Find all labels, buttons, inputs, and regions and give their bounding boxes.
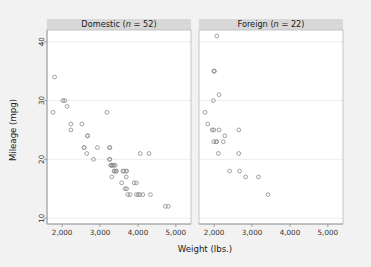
panel-header-label-foreign: Foreign (n = 22) <box>238 19 305 29</box>
panel-plot-area <box>47 30 191 224</box>
panel-plot-area <box>199 30 343 224</box>
panel-header-label-domestic: Domestic (n = 52) <box>81 19 156 29</box>
y-tick-label-30: 30 <box>37 96 46 106</box>
panel-header-suffix: = 22) <box>279 19 305 29</box>
panel-header-prefix: Foreign ( <box>238 19 274 29</box>
x-tick-label-3,000: 3,000 <box>242 228 263 237</box>
panel-domestic: Domestic (n = 52)2,0003,0004,0005,000102… <box>37 19 191 237</box>
y-tick-label-20: 20 <box>37 154 46 164</box>
x-axis-title: Weight (lbs.) <box>178 244 232 254</box>
panel-header-suffix: = 52) <box>131 19 157 29</box>
plot-root: Domestic (n = 52)2,0003,0004,0005,000102… <box>37 19 343 237</box>
x-tick-label-2,000: 2,000 <box>52 228 73 237</box>
figure-container: Domestic (n = 52)2,0003,0004,0005,000102… <box>0 0 371 267</box>
x-tick-label-4,000: 4,000 <box>128 228 149 237</box>
x-tick-label-5,000: 5,000 <box>166 228 187 237</box>
y-tick-label-10: 10 <box>37 213 46 223</box>
x-tick-label-4,000: 4,000 <box>280 228 301 237</box>
scatter-plot-chart: Domestic (n = 52)2,0003,0004,0005,000102… <box>0 0 371 267</box>
y-tick-label-40: 40 <box>37 37 46 47</box>
x-tick-label-2,000: 2,000 <box>204 228 225 237</box>
panel-foreign: Foreign (n = 22)2,0003,0004,0005,000 <box>199 19 343 237</box>
x-tick-label-3,000: 3,000 <box>90 228 111 237</box>
panel-header-prefix: Domestic ( <box>81 19 125 29</box>
x-tick-label-5,000: 5,000 <box>318 228 339 237</box>
y-axis-title: Mileage (mpg) <box>8 99 18 161</box>
